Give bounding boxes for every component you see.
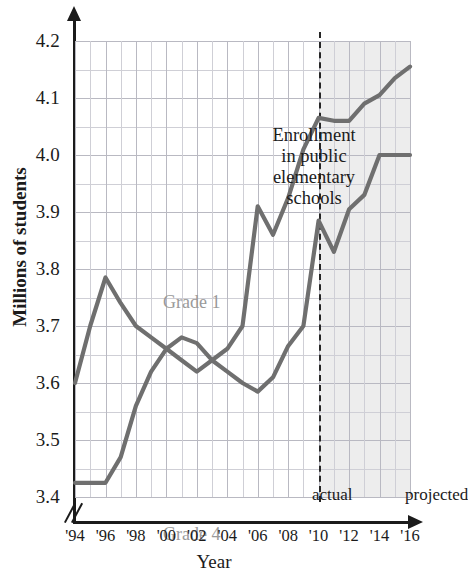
annotation-line-1: Enrollment	[243, 125, 385, 146]
chart-annotation: Enrollment in public elementary schools	[243, 125, 385, 209]
x-tick-label: '00	[157, 527, 176, 544]
x-tick-label: '96	[96, 527, 115, 544]
x-axis-title: Year	[0, 551, 428, 573]
x-axis-line	[73, 521, 411, 524]
x-tick-label: '02	[187, 527, 206, 544]
x-tick-label: '12	[339, 527, 358, 544]
y-tick-label: 4.2	[14, 31, 60, 50]
series-lines	[75, 41, 410, 497]
y-axis-arrow-icon	[67, 6, 81, 21]
y-tick-label: 3.4	[14, 487, 60, 506]
actual-label: actual	[312, 486, 353, 503]
y-axis-break-icon	[62, 500, 86, 528]
y-tick-label: 3.8	[14, 259, 60, 278]
gridline-vertical	[410, 41, 411, 497]
y-tick-label: 4.1	[14, 88, 60, 107]
gridline-horizontal	[75, 497, 410, 498]
series-line-grade-1	[75, 67, 410, 383]
x-tick-label: '04	[218, 527, 237, 544]
annotation-line-2: in public	[243, 146, 385, 167]
y-tick-label: 3.7	[14, 316, 60, 335]
annotation-line-4: schools	[243, 188, 385, 209]
projected-label: projected	[405, 486, 468, 503]
y-tick-label: 3.6	[14, 373, 60, 392]
annotation-line-3: elementary	[243, 167, 385, 188]
x-tick-label: '94	[65, 527, 84, 544]
series-label-grade-1: Grade 1	[163, 293, 220, 311]
x-tick-label: '08	[278, 527, 297, 544]
x-tick-label: '10	[309, 527, 328, 544]
x-tick-label: '98	[126, 527, 145, 544]
plot-area: Grade 1 Grade 4 actual projected Enrollm…	[75, 41, 410, 497]
y-tick-label: 3.9	[14, 202, 60, 221]
x-tick-label: '16	[400, 527, 419, 544]
x-tick-label: '14	[370, 527, 389, 544]
y-tick-label: 4.0	[14, 145, 60, 164]
x-tick-label: '06	[248, 527, 267, 544]
y-tick-label: 3.5	[14, 430, 60, 449]
